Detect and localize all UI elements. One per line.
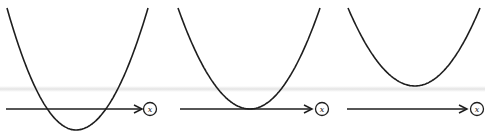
parabola-curve [178,8,320,109]
panel-no-roots: x [347,8,484,116]
panel-one-root: x [178,8,329,116]
axis-label: x [148,105,153,114]
axis-label: x [320,105,325,114]
panel-two-roots: x [6,8,157,130]
parabola-curve [348,8,480,86]
parabola-diagram: xxx [0,0,485,139]
parabola-curve [7,8,148,130]
axis-label: x [475,105,480,114]
